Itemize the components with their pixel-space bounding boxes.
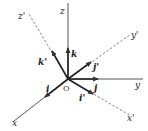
k-vector-label: k [71, 49, 77, 59]
y-prime-axis-label: y' [130, 30, 139, 40]
k-prime-vector-arrow [52, 51, 68, 79]
y-axis-label: y [134, 80, 141, 90]
i-prime-vector-label: i' [79, 93, 85, 103]
j-prime-vector-arrow [68, 62, 91, 79]
i-prime-vector-arrow [68, 79, 93, 94]
coordinate-axes-diagram: z y x z' y' x' k j i k' j' i' O [0, 0, 148, 131]
x-prime-axis-label: x' [127, 113, 135, 123]
j-prime-vector-label: j' [91, 62, 99, 72]
origin-label: O [63, 84, 70, 93]
k-prime-vector-label: k' [38, 57, 47, 67]
z-prime-axis-label: z' [17, 11, 25, 21]
j-vector-label: j [92, 83, 98, 93]
i-vector-label: i [46, 84, 50, 94]
z-axis-label: z [59, 6, 65, 16]
x-axis-label: x [12, 118, 17, 128]
